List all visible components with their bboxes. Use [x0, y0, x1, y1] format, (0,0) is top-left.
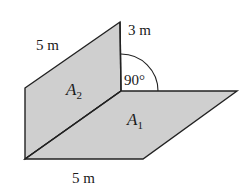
height-label: 3 m [128, 22, 151, 38]
two-planes-diagram: 5 m 3 m 90° 5 m A2 A1 [0, 0, 247, 193]
angle-label: 90° [124, 72, 145, 88]
top-edge-length-label: 5 m [36, 37, 59, 53]
vertical-edge [120, 22, 121, 91]
bottom-edge-length-label: 5 m [72, 170, 95, 186]
